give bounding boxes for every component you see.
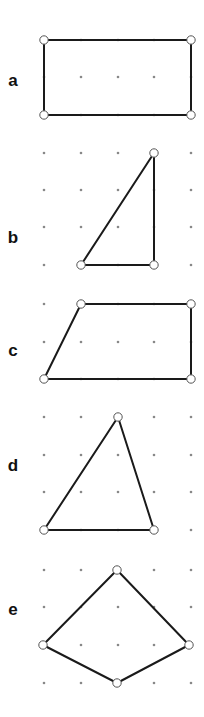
vertex-marker xyxy=(40,526,48,534)
grid-dot xyxy=(80,189,83,192)
grid-dot xyxy=(43,189,46,192)
grid-dot xyxy=(153,569,156,572)
grid-dot xyxy=(43,416,46,419)
grid-dot xyxy=(117,226,120,229)
vertex-marker xyxy=(77,300,85,308)
grid-dot xyxy=(190,416,193,419)
grid-dot xyxy=(43,454,46,457)
vertex-marker xyxy=(150,261,158,269)
figure-label-c: c xyxy=(8,342,17,359)
figure-b-right-triangle xyxy=(43,149,193,269)
grid-dot xyxy=(190,569,193,572)
grid-dot xyxy=(117,152,120,155)
grid-dot xyxy=(117,491,120,494)
grid-dot xyxy=(153,682,156,685)
grid-dot xyxy=(190,152,193,155)
grid-dot xyxy=(153,76,156,79)
grid-dot xyxy=(153,416,156,419)
vertex-marker xyxy=(150,526,158,534)
vertex-marker xyxy=(77,261,85,269)
grid-dot xyxy=(153,644,156,647)
grid-dot xyxy=(190,491,193,494)
grid-dot xyxy=(117,454,120,457)
grid-dot xyxy=(43,264,46,267)
vertex-marker xyxy=(39,641,47,649)
grid-dot xyxy=(153,454,156,457)
grid-dot xyxy=(190,226,193,229)
grid-dot xyxy=(80,416,83,419)
grid-dot xyxy=(117,341,120,344)
grid-dot xyxy=(80,226,83,229)
figure-label-e: e xyxy=(8,601,17,618)
vertex-marker xyxy=(187,375,195,383)
grid-dot xyxy=(153,491,156,494)
grid-dot xyxy=(80,569,83,572)
vertex-marker xyxy=(40,36,48,44)
vertex-marker xyxy=(187,36,195,44)
vertex-marker xyxy=(113,679,121,687)
figure-a-rectangle xyxy=(40,36,195,119)
grid-dot xyxy=(117,189,120,192)
grid-dot xyxy=(43,569,46,572)
vertex-marker xyxy=(187,300,195,308)
grid-dot xyxy=(43,303,46,306)
grid-dot xyxy=(43,152,46,155)
grid-dot xyxy=(190,454,193,457)
grid-dot xyxy=(190,529,193,532)
vertex-marker xyxy=(150,149,158,157)
vertex-marker xyxy=(187,111,195,119)
dot-grid-canvas xyxy=(0,0,204,717)
vertex-marker xyxy=(114,413,122,421)
grid-dot xyxy=(80,454,83,457)
figure-d-triangle xyxy=(40,413,193,534)
grid-dot xyxy=(80,682,83,685)
vertex-marker xyxy=(185,641,193,649)
vertex-marker xyxy=(40,375,48,383)
grid-dot xyxy=(43,226,46,229)
vertex-marker xyxy=(113,566,121,574)
grid-dot xyxy=(117,76,120,79)
grid-dot xyxy=(153,341,156,344)
grid-dot xyxy=(117,644,120,647)
grid-dot xyxy=(190,189,193,192)
triangle-outline xyxy=(44,417,154,530)
grid-dot xyxy=(43,491,46,494)
figure-label-d: d xyxy=(8,457,18,474)
grid-dot xyxy=(43,606,46,609)
kite-outline xyxy=(43,570,189,683)
figure-e-kite xyxy=(39,566,193,687)
grid-dot xyxy=(80,152,83,155)
vertex-marker xyxy=(40,111,48,119)
grid-dot xyxy=(190,682,193,685)
grid-dot xyxy=(80,76,83,79)
right-triangle-outline xyxy=(81,153,154,265)
grid-dot xyxy=(190,264,193,267)
grid-dot xyxy=(80,341,83,344)
grid-dot xyxy=(80,491,83,494)
grid-dot xyxy=(43,341,46,344)
grid-dot xyxy=(43,682,46,685)
figure-label-b: b xyxy=(8,229,18,246)
figure-c-trapezoid xyxy=(40,300,195,383)
figure-label-a: a xyxy=(8,72,17,89)
grid-dot xyxy=(190,606,193,609)
grid-dot xyxy=(117,606,120,609)
grid-dot xyxy=(80,644,83,647)
